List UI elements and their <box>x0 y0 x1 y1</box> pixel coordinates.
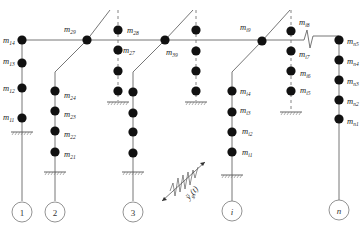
label-m22: m22 <box>64 129 76 140</box>
structure-i: mi9 mi8 mi7 mi6 mi5 mi4 mi3 mi2 mi1 i <box>221 10 311 221</box>
label-m27: m27 <box>123 45 135 56</box>
ground-excitation-icon: ÿg(t) <box>162 162 205 203</box>
label-m13: m13 <box>3 56 15 67</box>
label-mn3: mn3 <box>347 76 359 87</box>
structure-diagram: m14 m13 m12 m11 1 m29 m28 m27 m24 m23 m2… <box>0 0 364 226</box>
label-mn2: mn2 <box>347 96 359 107</box>
label-m12: m12 <box>3 83 15 94</box>
label-mi2: mi2 <box>242 126 253 137</box>
label-mi4: mi4 <box>240 86 251 97</box>
node-label-n: n <box>337 206 342 216</box>
label-m29: m29 <box>64 24 76 35</box>
node-label-3: 3 <box>131 208 136 218</box>
label-mn5: mn5 <box>347 36 359 47</box>
node-label-1: 1 <box>20 208 25 218</box>
structure-2: m29 m28 m27 m24 m23 m22 m21 2 <box>44 10 139 222</box>
label-mi9: mi9 <box>240 22 251 33</box>
label-m23: m23 <box>64 109 76 120</box>
label-mi1: mi1 <box>242 147 253 158</box>
label-mi5: mi5 <box>300 85 311 96</box>
label-mn4: mn4 <box>347 56 359 67</box>
label-m11: m11 <box>3 112 14 123</box>
label-mi8: mi8 <box>299 17 310 28</box>
label-m21: m21 <box>64 149 76 160</box>
label-m14: m14 <box>3 35 15 46</box>
label-mi3: mi3 <box>240 105 251 116</box>
label-m28: m28 <box>127 25 139 36</box>
structure-1: m14 m13 m12 m11 1 <box>3 35 33 222</box>
label-mi6: mi6 <box>300 68 311 79</box>
label-mi7: mi7 <box>299 49 310 60</box>
node-label-2: 2 <box>53 208 58 218</box>
label-m39: m39 <box>166 47 178 58</box>
label-m24: m24 <box>64 90 76 101</box>
label-mn1: mn1 <box>347 116 359 127</box>
structure-n: mn5 mn4 mn3 mn2 mn1 n <box>329 35 359 220</box>
